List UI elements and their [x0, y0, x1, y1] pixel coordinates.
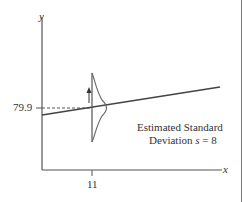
diagram-canvas: [0, 0, 242, 202]
y-tick-label: 79.9: [13, 101, 32, 113]
sd-note-line2: Deviation s = 8: [137, 134, 223, 147]
arrow-head: [87, 87, 92, 93]
sd-note: Estimated Standard Deviation s = 8: [137, 121, 223, 147]
sd-value: = 8: [200, 134, 217, 146]
regression-line: [42, 87, 220, 115]
x-tick-label: 11: [87, 178, 98, 190]
y-axis-label: y: [39, 10, 44, 22]
right-border: [241, 0, 242, 202]
sd-note-line1: Estimated Standard: [137, 121, 223, 134]
sd-note-prefix: Deviation: [149, 134, 195, 146]
x-axis-label: x: [223, 163, 228, 175]
